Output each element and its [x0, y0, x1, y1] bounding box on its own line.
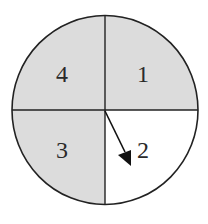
section-label-1: 1: [137, 61, 149, 87]
section-label-2: 2: [137, 137, 149, 163]
section-1: [105, 15, 198, 110]
section-label-3: 3: [56, 137, 68, 163]
section-label-4: 4: [56, 61, 68, 87]
spinner-diagram: 1 2 3 4: [0, 0, 208, 224]
section-2: [105, 110, 198, 204]
